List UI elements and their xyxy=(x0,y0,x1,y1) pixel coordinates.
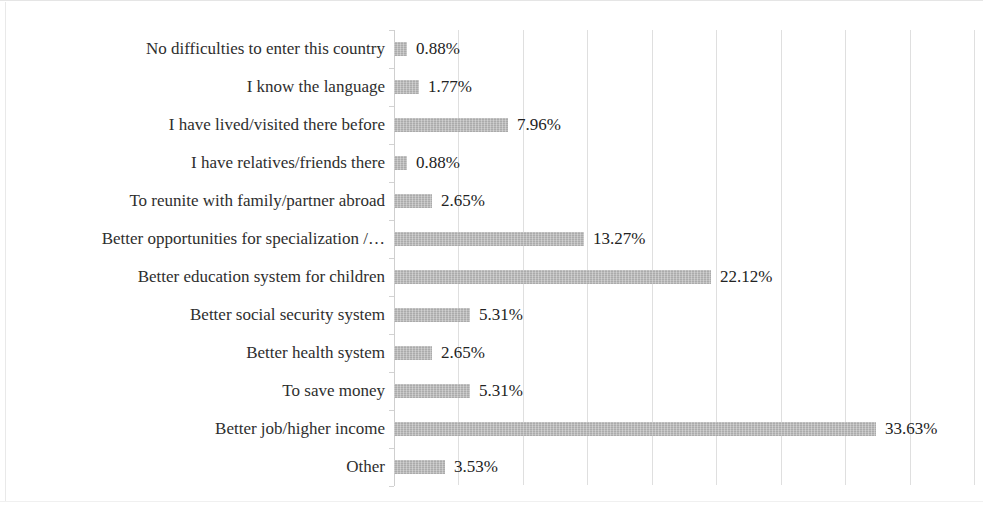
category-label: To save money xyxy=(282,372,385,410)
bar xyxy=(394,460,445,474)
bar xyxy=(394,156,407,170)
bar xyxy=(394,422,876,436)
bar-texture xyxy=(394,346,432,360)
value-label: 13.27% xyxy=(593,220,645,258)
value-label: 22.12% xyxy=(720,258,772,296)
bar-texture xyxy=(394,194,432,208)
value-label: 2.65% xyxy=(441,182,485,220)
category-label: To reunite with family/partner abroad xyxy=(129,182,385,220)
bar-row: Better job/higher income33.63% xyxy=(0,410,983,448)
value-label: 7.96% xyxy=(517,106,561,144)
category-label: Better job/higher income xyxy=(215,410,385,448)
bar xyxy=(394,270,711,284)
value-label: 5.31% xyxy=(479,372,523,410)
category-label: Other xyxy=(346,448,385,486)
value-label: 0.88% xyxy=(416,144,460,182)
bar-texture xyxy=(394,270,711,284)
category-label: I have lived/visited there before xyxy=(169,106,385,144)
bar xyxy=(394,80,419,94)
bar xyxy=(394,232,584,246)
bar-row: To save money5.31% xyxy=(0,372,983,410)
bar xyxy=(394,384,470,398)
bar-texture xyxy=(394,384,470,398)
bar-row: I have lived/visited there before7.96% xyxy=(0,106,983,144)
bar-texture xyxy=(394,308,470,322)
category-label: Better health system xyxy=(246,334,385,372)
bar xyxy=(394,42,407,56)
value-label: 33.63% xyxy=(885,410,937,448)
horizontal-bar-chart: No difficulties to enter this country0.8… xyxy=(0,0,983,510)
bar-texture xyxy=(394,232,584,246)
axis-tick xyxy=(389,486,394,487)
value-label: 5.31% xyxy=(479,296,523,334)
bar xyxy=(394,118,508,132)
bar-row: Better education system for children22.1… xyxy=(0,258,983,296)
bar-row: I know the language1.77% xyxy=(0,68,983,106)
bar-texture xyxy=(394,80,419,94)
category-label: I know the language xyxy=(247,68,385,106)
scan-edge-top xyxy=(0,0,983,1)
category-label: Better social security system xyxy=(190,296,385,334)
bar-texture xyxy=(394,118,508,132)
category-label: I have relatives/friends there xyxy=(191,144,385,182)
bar-row: To reunite with family/partner abroad2.6… xyxy=(0,182,983,220)
bar xyxy=(394,194,432,208)
bar xyxy=(394,308,470,322)
bar xyxy=(394,346,432,360)
bar-texture xyxy=(394,42,407,56)
bar-row: Better social security system5.31% xyxy=(0,296,983,334)
category-label: Better opportunities for specialization … xyxy=(102,220,385,258)
bar-texture xyxy=(394,460,445,474)
bar-row: Better opportunities for specialization … xyxy=(0,220,983,258)
value-label: 0.88% xyxy=(416,30,460,68)
value-label: 2.65% xyxy=(441,334,485,372)
bar-texture xyxy=(394,156,407,170)
value-label: 3.53% xyxy=(454,448,498,486)
bar-row: No difficulties to enter this country0.8… xyxy=(0,30,983,68)
bar-row: I have relatives/friends there0.88% xyxy=(0,144,983,182)
bar-row: Other3.53% xyxy=(0,448,983,486)
category-label: No difficulties to enter this country xyxy=(146,30,385,68)
scan-edge-bottom xyxy=(0,501,983,502)
bar-texture xyxy=(394,422,876,436)
bar-row: Better health system2.65% xyxy=(0,334,983,372)
category-label: Better education system for children xyxy=(138,258,385,296)
value-label: 1.77% xyxy=(428,68,472,106)
